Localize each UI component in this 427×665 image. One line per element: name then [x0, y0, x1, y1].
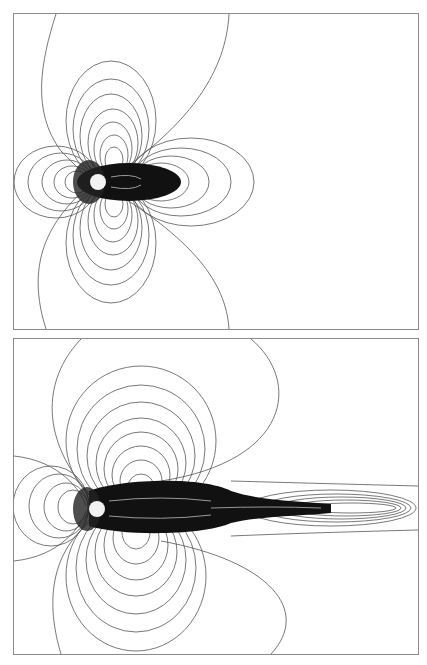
cylinder-top [90, 174, 106, 190]
contour-plot-top [13, 13, 419, 330]
contour-lines-bottom [14, 339, 418, 654]
contour-plot-bottom [13, 338, 419, 655]
cylinder-bottom [89, 501, 105, 517]
contour-lines-top [14, 14, 418, 329]
